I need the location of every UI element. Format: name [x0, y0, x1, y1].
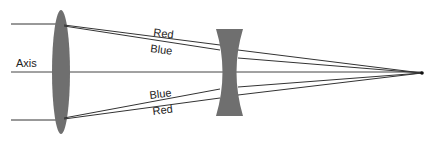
- focal-point: [420, 71, 424, 75]
- ray-diagram: Axis Red Blue Blue Red: [0, 0, 433, 143]
- ray-bottom-blue-segment1: [64, 89, 220, 118]
- diagram-canvas: Axis Red Blue Blue Red: [0, 0, 433, 143]
- ray-top-blue-segment2: [238, 58, 422, 73]
- ray-bottom-blue-segment2: [238, 73, 422, 87]
- ray-top-red-segment1: [64, 25, 220, 45]
- label-top-red: Red: [153, 26, 174, 40]
- label-top-blue: Blue: [150, 42, 173, 57]
- axis-label: Axis: [16, 57, 37, 69]
- ray-bottom-red-segment2: [238, 73, 422, 95]
- ray-bottom-red-segment1: [64, 98, 220, 119]
- ray-top-blue-segment1: [64, 26, 220, 50]
- label-bottom-red: Red: [152, 103, 173, 117]
- ray-top-red-segment2: [238, 50, 422, 73]
- converging-lens: [52, 10, 70, 134]
